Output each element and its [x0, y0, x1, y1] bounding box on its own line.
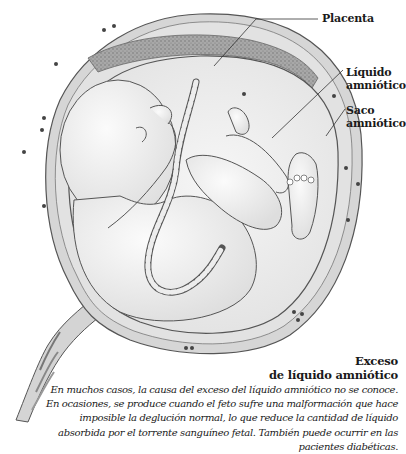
label-saco-line1: Saco	[346, 104, 406, 117]
caption-title: Exceso de líquido amniótico	[8, 354, 398, 382]
label-saco-amniotico: Saco amniótico	[346, 104, 406, 130]
label-placenta-text: Placenta	[322, 12, 374, 25]
figure-caption: Exceso de líquido amniótico En muchos ca…	[8, 354, 398, 454]
label-saco-line2: amniótico	[346, 117, 406, 130]
caption-title-line1: Exceso	[8, 354, 398, 368]
caption-line: En muchos casos, la causa del exceso del…	[8, 383, 398, 397]
label-liquido-line1: Líquido	[346, 66, 406, 79]
caption-title-line2: de líquido amniótico	[8, 368, 398, 382]
label-placenta: Placenta	[322, 12, 374, 25]
label-liquido-amniotico: Líquido amniótico	[346, 66, 406, 92]
caption-line: absorbida por el torrente sanguíneo feta…	[8, 426, 398, 440]
caption-line: imposible la deglución normal, lo que re…	[8, 411, 398, 425]
caption-line: En ocasiones, se produce cuando el feto …	[8, 397, 398, 411]
label-liquido-line2: amniótico	[346, 79, 406, 92]
caption-line: pacientes diabéticas.	[8, 440, 398, 454]
caption-body: En muchos casos, la causa del exceso del…	[8, 383, 398, 454]
